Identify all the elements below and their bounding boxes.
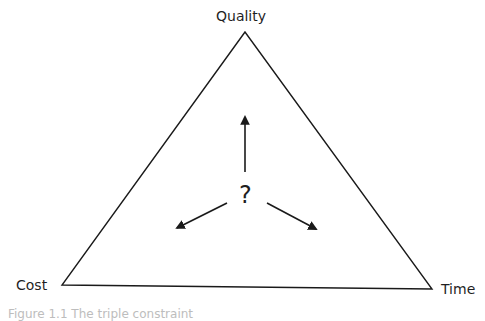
center-question-mark: ? bbox=[239, 181, 252, 209]
arrow-down-left-icon bbox=[177, 203, 227, 228]
figure-caption: Figure 1.1 The triple constraint bbox=[8, 307, 193, 321]
vertex-label-quality: Quality bbox=[216, 8, 266, 24]
vertex-label-time: Time bbox=[441, 281, 475, 297]
arrow-down-right-icon bbox=[267, 203, 316, 229]
triangle-outline bbox=[62, 32, 432, 289]
vertex-label-cost: Cost bbox=[16, 277, 47, 293]
